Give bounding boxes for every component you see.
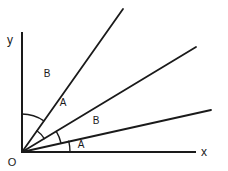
x-axis-label: x: [201, 145, 207, 159]
angle-a-upper-label: A: [60, 97, 67, 108]
angle-a-lower-label: A: [78, 139, 85, 150]
angle-diagram-figure: y x O B A B A: [0, 0, 228, 171]
origin-label: O: [8, 156, 17, 168]
angle-b-lower-label: B: [93, 115, 100, 126]
angle-b-upper-label: B: [44, 68, 51, 79]
diagram-canvas: y x O B A B A: [0, 0, 228, 171]
y-axis-label: y: [7, 33, 13, 47]
